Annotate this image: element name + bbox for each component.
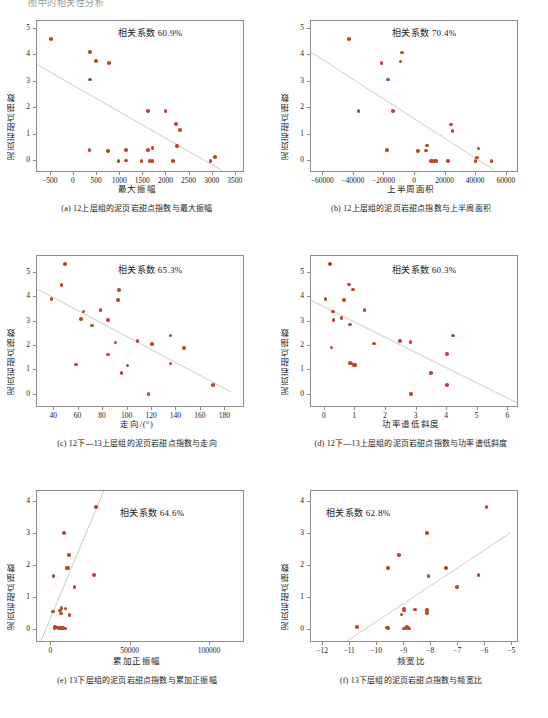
y-tick <box>307 321 310 322</box>
panel-cell-a: −5000500100015002000250030003500012345泥页… <box>0 6 274 241</box>
data-point <box>88 50 92 54</box>
data-point <box>74 363 78 367</box>
data-point <box>445 383 449 387</box>
data-point <box>416 149 420 153</box>
panel-cell-c: 406080100120140160180012345泥页岩甜点指数走向/(°)… <box>0 241 274 476</box>
data-point <box>209 159 213 163</box>
data-point <box>474 159 478 163</box>
data-point <box>175 144 179 148</box>
trend-line-b <box>311 21 518 172</box>
data-point <box>106 318 110 322</box>
correlation-annotation-a: 相关系数 60.9% <box>118 26 183 39</box>
data-point <box>332 318 336 322</box>
data-point <box>445 352 449 356</box>
y-tick <box>33 565 36 566</box>
data-point <box>124 159 128 163</box>
x-tick <box>477 407 478 410</box>
x-tick <box>511 642 512 645</box>
data-point <box>79 317 83 321</box>
data-point <box>92 573 96 577</box>
data-point <box>140 159 144 163</box>
y-axis-label-d: 泥页岩甜点指数 <box>280 273 292 395</box>
x-tick <box>385 407 386 410</box>
panel-caption-d: (d) 12下—13上层组的泥页岩甜点指数与功率谱低斜度 <box>274 437 548 448</box>
data-point <box>73 585 77 589</box>
y-tick <box>33 321 36 322</box>
data-point <box>67 553 71 557</box>
data-point <box>386 566 390 570</box>
correlation-annotation-c: 相关系数 65.3% <box>118 263 183 276</box>
data-point <box>117 159 121 163</box>
y-tick <box>307 565 310 566</box>
data-point <box>52 574 56 578</box>
x-tick <box>102 407 103 410</box>
x-tick <box>414 172 415 175</box>
y-tick <box>307 345 310 346</box>
data-point <box>405 625 409 629</box>
data-point <box>347 37 351 41</box>
x-tick <box>50 172 51 175</box>
data-point <box>66 566 70 570</box>
x-tick <box>175 407 176 410</box>
x-tick <box>430 642 431 645</box>
panel-caption-e: (e) 13下层组的泥页岩甜点指数与累加正振幅 <box>0 674 274 685</box>
data-point <box>94 505 98 509</box>
y-tick <box>33 272 36 273</box>
data-point <box>63 627 67 631</box>
panel-cell-b: −60000−40000−200000200004000060000012345… <box>274 6 548 241</box>
y-axis-label-c: 泥页岩甜点指数 <box>6 273 18 395</box>
y-tick <box>33 501 36 502</box>
data-point <box>398 339 402 343</box>
x-tick <box>189 172 190 175</box>
x-tick <box>506 172 507 175</box>
data-point <box>435 159 439 163</box>
x-tick <box>324 407 325 410</box>
y-tick <box>307 394 310 395</box>
data-point <box>413 608 417 612</box>
x-tick <box>96 172 97 175</box>
data-point <box>490 159 494 163</box>
data-point <box>88 78 92 82</box>
data-point <box>178 128 182 132</box>
data-point <box>449 123 453 127</box>
x-tick <box>212 172 213 175</box>
data-point <box>397 553 401 557</box>
y-tick <box>307 296 310 297</box>
y-tick <box>307 160 310 161</box>
data-point <box>147 392 151 396</box>
plot-area-b <box>310 20 518 172</box>
data-point <box>151 159 155 163</box>
y-axis-label-e: 泥页岩甜点指数 <box>6 508 18 630</box>
data-point <box>106 149 110 153</box>
data-point <box>211 383 215 387</box>
data-point <box>446 159 450 163</box>
y-tick <box>307 54 310 55</box>
x-tick <box>484 642 485 645</box>
x-tick <box>119 172 120 175</box>
panel-caption-a: (a) 12上层组的泥页岩甜点指数与最大振幅 <box>0 202 274 213</box>
y-tick <box>33 54 36 55</box>
data-point <box>357 109 361 113</box>
data-point <box>63 262 67 266</box>
data-point <box>386 626 390 630</box>
data-point <box>425 611 429 615</box>
data-point <box>477 573 481 577</box>
x-tick <box>445 172 446 175</box>
plot-area-d <box>310 255 518 407</box>
y-tick <box>33 296 36 297</box>
x-tick <box>200 407 201 410</box>
correlation-annotation-b: 相关系数 70.4% <box>392 26 457 39</box>
y-tick <box>33 533 36 534</box>
y-axis-label-a: 泥页岩甜点指数 <box>6 38 18 160</box>
data-point <box>117 288 121 292</box>
x-axis-label-e: 累加正振幅 <box>0 654 274 666</box>
data-point <box>355 625 359 629</box>
y-tick <box>307 81 310 82</box>
x-axis-label-d: 功率谱低斜度 <box>274 417 548 429</box>
data-point <box>94 59 98 63</box>
x-tick <box>475 172 476 175</box>
plot-area-c <box>36 255 244 407</box>
trend-line-d <box>311 256 518 407</box>
y-tick-label: 4 <box>6 496 30 505</box>
panel-caption-c: (c) 12下—13上层组的泥页岩甜点指数与走向 <box>0 437 274 448</box>
